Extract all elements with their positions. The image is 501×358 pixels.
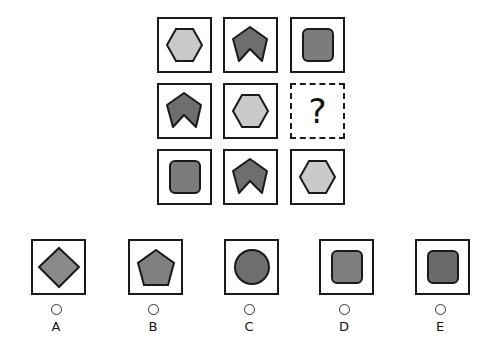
hexagon-icon	[225, 85, 276, 137]
option-b-radio[interactable]	[148, 304, 159, 315]
arrow-shape-icon	[225, 19, 276, 71]
grid-cell-r1c1	[157, 17, 212, 73]
diamond-icon	[33, 241, 84, 293]
option-d-radio[interactable]	[339, 304, 350, 315]
grid-cell-r3c3	[290, 149, 345, 205]
grid-cell-r3c1	[157, 149, 212, 205]
option-a-box[interactable]	[31, 239, 86, 295]
option-b-box[interactable]	[128, 239, 183, 295]
rounded-square-icon	[159, 151, 210, 203]
rounded-square-icon	[417, 241, 468, 293]
grid-cell-r1c3	[290, 17, 345, 73]
option-b-label: B	[143, 319, 163, 334]
grid-cell-missing: ?	[290, 83, 345, 139]
grid-cell-r2c1	[157, 83, 212, 139]
pentagon-icon	[130, 241, 181, 293]
hexagon-icon	[159, 19, 210, 71]
grid-cell-r2c2	[223, 83, 278, 139]
arrow-shape-icon	[225, 151, 276, 203]
option-a-label: A	[46, 319, 66, 334]
arrow-shape-icon	[159, 85, 210, 137]
hexagon-icon	[292, 151, 343, 203]
option-a-radio[interactable]	[51, 304, 62, 315]
option-c-radio[interactable]	[244, 304, 255, 315]
grid-cell-r3c2	[223, 149, 278, 205]
option-c-box[interactable]	[224, 239, 279, 295]
option-e-box[interactable]	[415, 239, 470, 295]
option-e-label: E	[430, 319, 450, 334]
option-c-label: C	[239, 319, 259, 334]
rounded-square-icon	[292, 19, 343, 71]
question-mark: ?	[292, 85, 343, 137]
grid-cell-r1c2	[223, 17, 278, 73]
option-e-radio[interactable]	[435, 304, 446, 315]
circle-icon	[226, 241, 277, 293]
option-d-box[interactable]	[319, 239, 374, 295]
option-d-label: D	[334, 319, 354, 334]
rounded-square-icon	[321, 241, 372, 293]
